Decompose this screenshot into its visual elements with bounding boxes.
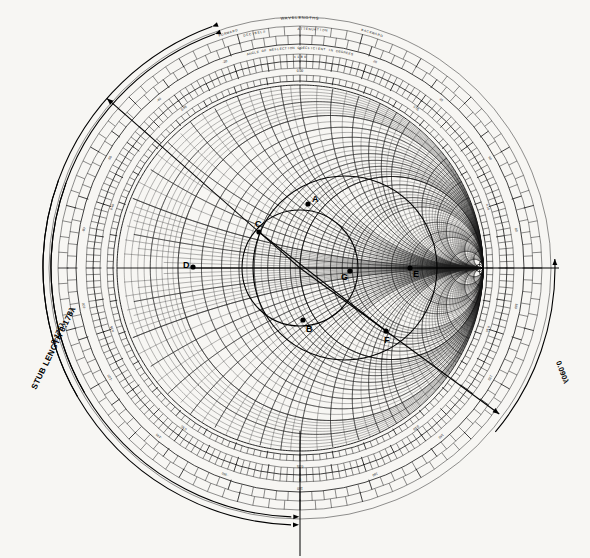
point-marker bbox=[305, 201, 310, 206]
smith-chart-svg: 0.000.050.100.150.200.250.300.350.400.45… bbox=[0, 0, 590, 558]
point-marker bbox=[407, 265, 412, 270]
point-marker bbox=[347, 268, 352, 273]
point-marker bbox=[383, 328, 388, 333]
wavelength-tick-label: 0.00 bbox=[297, 69, 304, 73]
point-marker bbox=[190, 264, 195, 269]
point-marker bbox=[300, 317, 305, 322]
svg-text:0: 0 bbox=[304, 55, 306, 59]
angle-tick-label: -80 bbox=[81, 227, 86, 233]
point-label: A bbox=[312, 194, 319, 204]
svg-text:F: F bbox=[308, 46, 310, 50]
bottom-center-marker: 0 bbox=[299, 477, 301, 481]
point-marker bbox=[256, 229, 261, 234]
svg-text:0: 0 bbox=[299, 477, 301, 481]
chart-background bbox=[0, 0, 590, 558]
svg-text:T: T bbox=[317, 28, 319, 32]
svg-text:8: 8 bbox=[301, 55, 303, 59]
svg-text:E: E bbox=[292, 15, 295, 20]
svg-text:S: S bbox=[316, 15, 319, 20]
point-label: B bbox=[306, 324, 313, 334]
svg-text:T: T bbox=[323, 47, 326, 51]
point-label: F bbox=[384, 335, 390, 345]
smith-chart-figure: 0.000.050.100.150.200.250.300.350.400.45… bbox=[0, 0, 590, 558]
point-label: E bbox=[413, 269, 419, 279]
point-label: G bbox=[341, 272, 348, 282]
point-label: D bbox=[183, 260, 190, 270]
label-wavelengths: WAVELENGTHS bbox=[281, 15, 319, 21]
point-label: C bbox=[255, 219, 262, 229]
svg-text:±: ± bbox=[294, 55, 296, 59]
svg-text:T: T bbox=[285, 46, 287, 50]
svg-text:1: 1 bbox=[297, 55, 299, 59]
